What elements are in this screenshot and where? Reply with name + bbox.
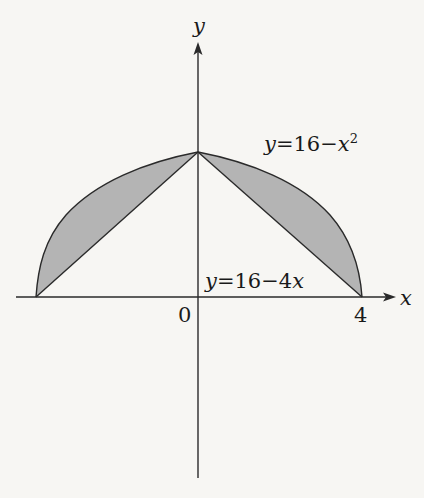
- lower-line-label: y=16−4x: [204, 269, 304, 293]
- origin-label: 0: [178, 303, 191, 327]
- y-axis-label: y: [192, 14, 206, 38]
- x-tick-4-label: 4: [354, 303, 367, 327]
- region-diagram: y x 0 4 y=16−x2 y=16−4x: [0, 0, 424, 498]
- x-axis-label: x: [400, 286, 412, 310]
- upper-curve-label: y=16−x2: [263, 131, 358, 156]
